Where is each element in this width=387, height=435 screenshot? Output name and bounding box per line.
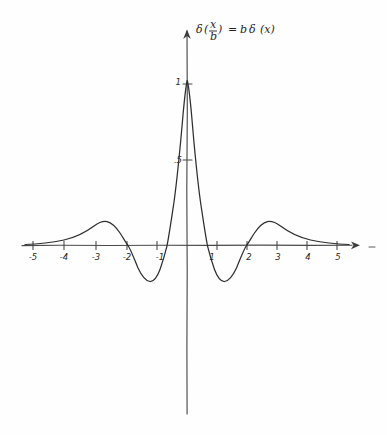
x-tick-label--5: -5: [29, 252, 37, 262]
x-tick-label--3: -3: [92, 252, 100, 262]
formula-delta-left: δ: [196, 23, 203, 36]
delta-function-figure: -5 -4 -3 -2 -1 1 2 3 4 5 .5 1 δ ( x b ) …: [0, 0, 387, 435]
y-axis-group: [183, 30, 191, 415]
x-tick-label--2: -2: [123, 252, 131, 262]
x-tick-label-2: 2: [246, 252, 251, 262]
x-tick-label-4: 4: [305, 252, 310, 262]
plot-canvas: -5 -4 -3 -2 -1 1 2 3 4 5 .5 1 δ ( x b ) …: [0, 0, 387, 435]
formula-equals: =: [228, 23, 237, 36]
y-tick-label-1: 1: [176, 77, 181, 87]
formula-denominator-b: b: [210, 30, 217, 43]
x-tick-label-3: 3: [275, 252, 280, 262]
y-axis-line: [187, 31, 188, 414]
formula-coefficient-b: b: [240, 23, 247, 36]
scaling-identity-annotation: δ ( x b ) = b δ (x): [196, 18, 275, 43]
formula-argument: (x): [260, 23, 275, 36]
formula-delta-right: δ: [249, 23, 256, 36]
x-tick-label-5: 5: [335, 252, 340, 262]
formula-paren-open: (: [204, 23, 209, 36]
x-tick-label--4: -4: [60, 252, 68, 262]
formula-paren-close: ): [217, 23, 222, 36]
